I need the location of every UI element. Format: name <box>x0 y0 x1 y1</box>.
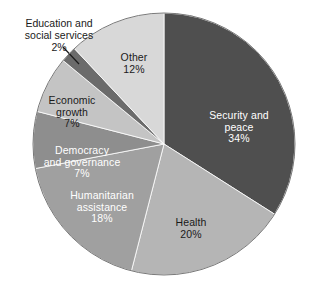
slice-label-percent: 34% <box>196 133 282 145</box>
slice-label-economic-growth: Economic growth 7% <box>34 83 110 142</box>
slice-label-education-and-social-services: Education and social services 2% <box>4 6 114 54</box>
slice-label-text: Security and peace <box>209 109 269 133</box>
slice-label-percent: 2% <box>51 41 66 53</box>
slice-label-percent: 20% <box>159 229 223 241</box>
slice-label-health: Health 20% <box>159 205 223 252</box>
slice-label-percent: 12% <box>104 64 164 76</box>
slice-label-percent: 18% <box>56 213 148 225</box>
slice-label-democracy-and-governance: Democracy and governance 7% <box>30 133 134 192</box>
slice-label-text: Health <box>176 216 207 228</box>
slice-label-text: Humanitarian assistance <box>70 189 134 213</box>
slice-label-text: Economic growth <box>49 94 96 118</box>
slice-label-percent: 7% <box>30 168 134 180</box>
slice-label-text: Other <box>121 51 148 63</box>
slice-label-text: Education and social services <box>25 17 93 41</box>
pie-chart: Security and peace 34% Health 20% Humani… <box>0 0 309 283</box>
slice-label-security-and-peace: Security and peace 34% <box>196 98 282 157</box>
slice-label-percent: 7% <box>34 118 110 130</box>
slice-label-text: Democracy and governance <box>44 144 121 168</box>
